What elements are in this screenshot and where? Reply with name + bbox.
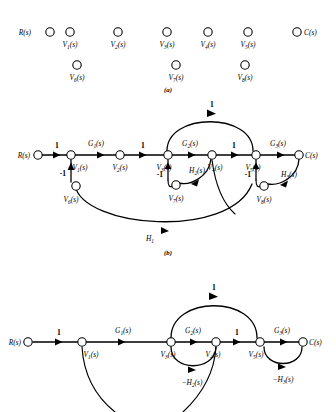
signal-flow-graph-figure: R(s) V1(s) V2(s) V3(s) V4(s) V5(s) C(s) …	[0, 0, 336, 412]
node-C-c	[299, 338, 307, 346]
gain-c-V1-V3: G1(s)	[115, 326, 131, 336]
gain-c-arc-top: 1	[212, 283, 216, 292]
arrowhead-b-H1	[161, 227, 169, 234]
panel-a: R(s) V1(s) V2(s) V3(s) V4(s) V5(s) C(s) …	[18, 28, 318, 94]
arrowhead-c-V5-C	[280, 339, 288, 346]
node-label-V3-c: V3(s)	[160, 350, 176, 360]
arrowhead-c-arc-top	[209, 293, 218, 301]
node-label-V4-a: V4(s)	[200, 40, 216, 50]
arrowhead-c-V4-V5	[233, 339, 241, 346]
node-label-V4-b: V4(s)	[207, 163, 223, 173]
node-label-V8-b: V8(s)	[256, 195, 272, 205]
node-label-R-c: R(s)	[8, 338, 22, 347]
gain-c-V5-C: G3(s)	[274, 326, 290, 336]
panel-c: R(s) V1(s) V3(s) V4(s) V5(s) C(s) 1 G1(s…	[8, 283, 323, 412]
figure-canvas: R(s) V1(s) V2(s) V3(s) V4(s) V5(s) C(s) …	[0, 0, 336, 412]
node-label-C-b: C(s)	[305, 151, 318, 160]
node-label-V3-a: V3(s)	[159, 40, 175, 50]
arrowhead-b-V3-V4	[188, 152, 196, 159]
node-V7-a	[172, 61, 180, 69]
node-V2-b	[116, 151, 124, 159]
node-label-V1-c: V1(s)	[83, 350, 99, 360]
node-label-V5-c: V5(s)	[248, 350, 264, 360]
gain-c-H3: −H3(s)	[273, 375, 294, 385]
node-label-V2-b: V2(s)	[112, 163, 128, 173]
gain-b-V2-V3: 1	[141, 141, 145, 150]
panel-a-caption: (a)	[164, 86, 172, 94]
gain-b-C-V8: H3(s)	[280, 170, 297, 180]
gain-b-H1: H1	[145, 234, 154, 244]
panel-b: R(s) V1(s) V2(s) V3(s) V4(s) V5(s) C(s) …	[17, 100, 319, 257]
node-R-a	[46, 28, 54, 36]
edge-c-arc-top	[171, 306, 257, 338]
node-V7-b	[172, 181, 180, 189]
node-V4-c	[212, 338, 220, 346]
gain-b-V1-V2: G1(s)	[88, 139, 104, 149]
node-V4-b	[208, 151, 216, 159]
node-label-C-c: C(s)	[309, 338, 322, 347]
arrowhead-b-V5-C	[277, 152, 285, 159]
node-V1-b	[67, 151, 75, 159]
arrowhead-c-H3	[278, 364, 286, 371]
node-label-R-b: R(s)	[17, 151, 31, 160]
node-label-V5-a: V5(s)	[240, 40, 256, 50]
node-V6-b	[72, 182, 80, 190]
edge-b-V4-arc-top	[167, 122, 253, 151]
edge-c-C-V5-H3	[264, 347, 302, 364]
node-label-V1-a: V1(s)	[62, 40, 78, 50]
node-V5-c	[256, 338, 264, 346]
gain-c-R-V1: 1	[57, 328, 61, 337]
arrowhead-b-arc-top	[207, 110, 216, 118]
node-label-V6-a: V6(s)	[69, 73, 85, 83]
node-V3-b	[164, 151, 172, 159]
arrowhead-c-R-V1	[55, 339, 63, 346]
node-label-V2-a: V2(s)	[110, 40, 126, 50]
gain-b-V6-V1: -1	[60, 169, 67, 178]
gain-b-R-V1: 1	[55, 141, 59, 150]
node-C-b	[295, 151, 303, 159]
node-V1-a	[66, 28, 74, 36]
node-V2-a	[114, 28, 122, 36]
panel-b-caption: (b)	[164, 249, 172, 257]
node-V3-a	[163, 28, 171, 36]
node-label-V1-b: V1(s)	[72, 163, 88, 173]
gain-c-V4-V5: 1	[235, 328, 239, 337]
node-V8-b	[260, 182, 268, 190]
node-R-b	[34, 151, 42, 159]
node-label-V4-c: V4(s)	[205, 350, 221, 360]
node-V8-a	[241, 61, 249, 69]
node-label-V7-a: V7(s)	[168, 73, 184, 83]
node-label-C-a: C(s)	[304, 28, 317, 37]
node-label-R-a: R(s)	[18, 28, 32, 37]
node-V6-a	[73, 61, 81, 69]
gain-b-arc-top: 1	[210, 100, 214, 109]
arrowhead-b-R-V1	[53, 152, 61, 159]
node-C-a	[293, 28, 301, 36]
arrowhead-c-H2	[188, 367, 196, 374]
gain-b-V5-C: G3(s)	[270, 139, 286, 149]
gain-c-H2: −H2(s)	[182, 378, 203, 388]
node-R-c	[24, 338, 32, 346]
gain-b-V8-V5: -1	[245, 170, 252, 179]
gain-b-V3-V4: G2(s)	[182, 139, 198, 149]
gain-b-V4-V7: H2(s)	[188, 166, 205, 176]
node-V5-b	[252, 151, 260, 159]
arrowhead-b-V1-V2	[97, 152, 105, 159]
node-V3-c	[167, 338, 175, 346]
node-V5-a	[244, 28, 252, 36]
gain-b-V4-V5: 1	[232, 141, 236, 150]
arrowhead-c-V3-V4	[190, 339, 198, 346]
gain-c-V3-V4: G2(s)	[185, 326, 201, 336]
arrowhead-c-V1-V3	[118, 339, 126, 346]
node-V1-c	[78, 338, 86, 346]
gain-b-V7-V3: -1	[157, 170, 164, 179]
node-label-V7-b: V7(s)	[168, 194, 184, 204]
node-label-V6-b: V6(s)	[63, 195, 79, 205]
node-label-V8-a: V8(s)	[237, 73, 253, 83]
arrowhead-b-V2-V3	[139, 152, 147, 159]
arrowhead-b-V4-V5	[231, 152, 239, 159]
node-V4-a	[204, 28, 212, 36]
